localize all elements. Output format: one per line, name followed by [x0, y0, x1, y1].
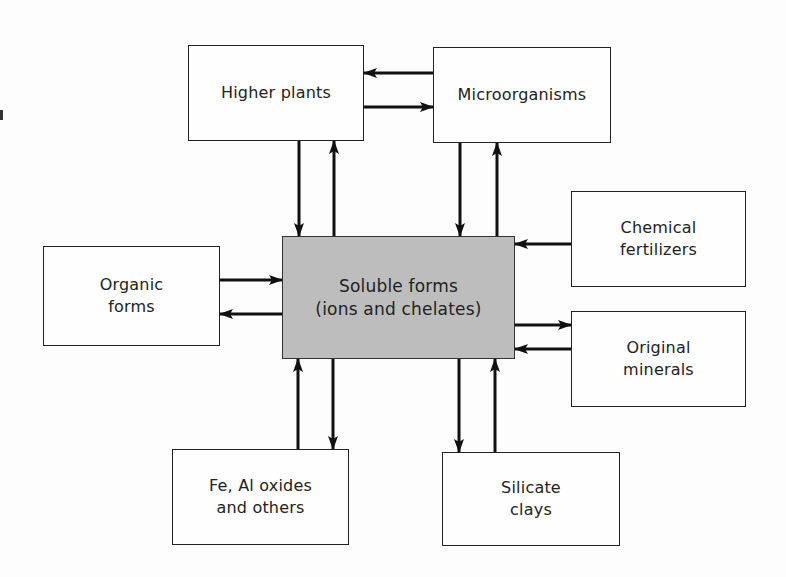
node-label: Higher plants — [221, 82, 331, 104]
node-soluble-forms: Soluble forms (ions and chelates) — [282, 236, 515, 359]
node-label: Chemical fertilizers — [620, 217, 697, 261]
node-fe-al-oxides: Fe, Al oxides and others — [172, 449, 349, 545]
node-label: Microorganisms — [458, 84, 587, 106]
node-silicate-clays: Silicate clays — [442, 452, 620, 546]
node-original-minerals: Original minerals — [571, 311, 746, 407]
node-label: Soluble forms (ions and chelates) — [315, 275, 481, 321]
node-higher-plants: Higher plants — [188, 45, 364, 141]
node-label: Original minerals — [623, 337, 694, 381]
edge-artifact — [0, 110, 3, 120]
node-label: Silicate clays — [501, 477, 561, 521]
node-chemical-fertilizers: Chemical fertilizers — [571, 191, 746, 287]
node-label: Fe, Al oxides and others — [209, 475, 312, 519]
node-organic-forms: Organic forms — [43, 246, 220, 346]
node-microorganisms: Microorganisms — [433, 47, 611, 143]
node-label: Organic forms — [100, 274, 164, 318]
